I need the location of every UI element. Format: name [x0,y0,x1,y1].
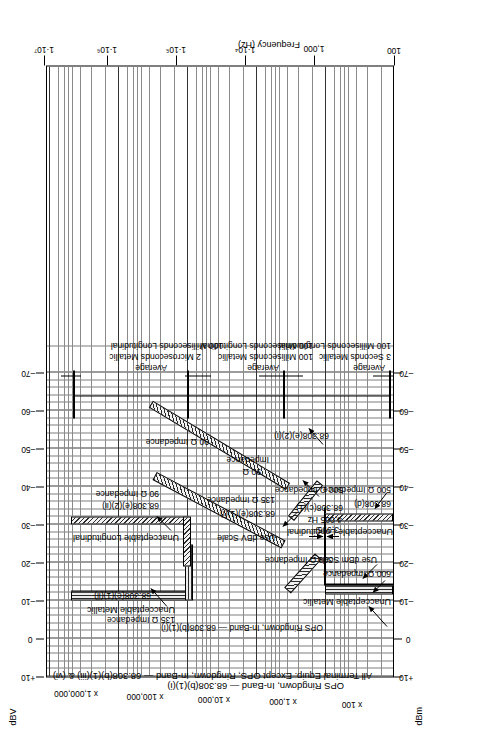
dbv-tickmark-0 [36,676,44,677]
dbm-tickmark-0 [394,676,402,677]
dbm-tick-1: 0 [406,635,411,643]
dbv-tickmark-2 [36,600,44,601]
dbm-tickmark-3 [394,562,402,563]
freq-tick-0: 100 [387,46,401,54]
freq-tickmark-0 [394,55,395,65]
dbv-tickmark-7 [36,410,44,411]
decade-label-x100000: x 100,000 [127,692,164,700]
dbv-tick-0: +10 [21,673,35,681]
freq-tickmark-5 [44,55,45,65]
decade-label-x100: x 100 [342,701,363,709]
freq-tickmark-3 [176,55,177,65]
dbv-tickmark-3 [36,562,44,563]
chart-title: OPS Ringdown, In-Band — 68.308(b)(1)(i) [167,680,344,691]
dbm-tickmark-5 [394,486,402,487]
dbv-tickmark-5 [36,486,44,487]
plot-area: Average 2 Microseconds Metallic 100 Mill… [46,65,394,677]
decade-label-x10000: x 10,000 [198,695,230,703]
freq-tick-3: 1·10⁵ [166,45,186,53]
dbv-tick-3: –20 [21,559,35,567]
dbv-tickmark-6 [36,448,44,449]
chart-subtitle: All Terminal Equip. Except OPS, Ringdown… [53,670,372,681]
chart-stage: dBV dBm Frequency (Hz) +10 0 –10 –20 –30… [0,0,482,749]
freq-tick-1: 1,000 [304,44,325,52]
dbv-tick-1: 0 [28,635,33,643]
decade-label-x1000: x 1,000 [269,697,296,705]
dbv-tick-2: –10 [21,597,35,605]
freq-tick-5: 1·10⁷ [34,45,54,53]
leader-arrows [47,65,394,676]
freq-tick-4: 1·10⁶ [97,45,117,53]
dbv-tick-4: –30 [21,521,35,529]
freq-tick-2: 1·10⁴ [235,45,255,53]
dbm-tickmark-1 [394,638,402,639]
decade-label-x1000000: x 1,000,000 [54,689,98,697]
figure-page: dBV dBm Frequency (Hz) +10 0 –10 –20 –30… [0,0,482,749]
gridline-h-1e2 [393,66,394,676]
dbm-tickmark-7 [394,410,402,411]
axis-title-dbm: dBm [414,706,424,725]
dbv-tick-7: –60 [21,407,35,415]
dbm-tickmark-8 [394,372,402,373]
freq-tickmark-2 [245,55,246,65]
dbv-tickmark-8 [36,372,44,373]
dbv-tick-8: –70 [21,369,35,377]
axis-title-dbv: dBV [8,708,18,725]
freq-tickmark-1 [314,55,315,65]
dbm-tickmark-2 [394,600,402,601]
freq-tickmark-4 [107,55,108,65]
dbv-tickmark-1 [36,638,44,639]
dbv-tickmark-4 [36,524,44,525]
dbv-tick-5: –40 [21,483,35,491]
dbm-tickmark-4 [394,524,402,525]
dbm-tickmark-6 [394,448,402,449]
dbv-tick-6: –50 [21,445,35,453]
